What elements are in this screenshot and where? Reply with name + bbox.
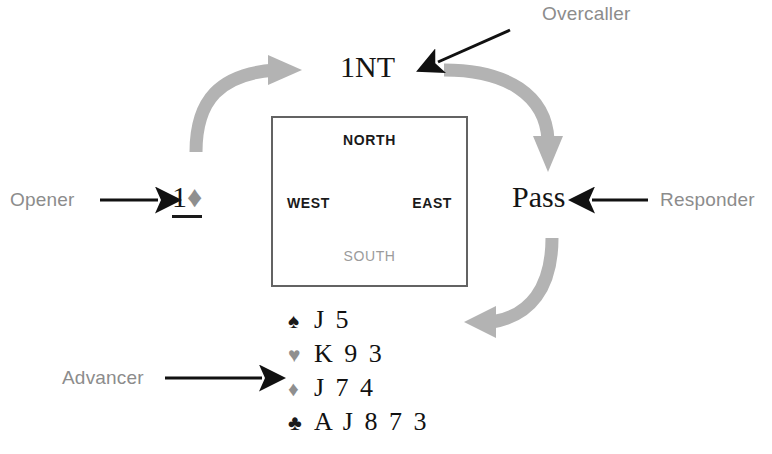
responder-bid-text: Pass (512, 180, 565, 213)
compass-label-east: EAST (412, 196, 452, 210)
opener-bid-rank: 1 (172, 180, 187, 213)
opener-label: Opener (10, 190, 75, 209)
hand-row-clubs: ♣ A J 8 7 3 (288, 405, 518, 439)
diamond-icon: ♦ (187, 180, 202, 213)
hand-cards-diamonds: J 7 4 (314, 371, 376, 405)
club-icon: ♣ (288, 412, 314, 433)
spade-icon: ♠ (288, 310, 314, 331)
overcaller-pointer-arrow (438, 30, 510, 62)
responder-bid-pass: Pass (512, 182, 565, 212)
responder-label: Responder (660, 190, 755, 209)
hand-cards-hearts: K 9 3 (314, 337, 384, 371)
hand-row-spades: ♠ J 5 (288, 303, 518, 337)
advancer-label: Advancer (62, 368, 144, 387)
hand-row-hearts: ♥ K 9 3 (288, 337, 518, 371)
compass-label-south: SOUTH (273, 249, 466, 263)
overcaller-label: Overcaller (542, 4, 631, 23)
advancer-hand: ♠ J 5 ♥ K 9 3 ♦ J 7 4 ♣ A J 8 7 3 (288, 303, 518, 439)
overcaller-bid-text: 1NT (340, 50, 395, 83)
compass-label-west: WEST (287, 196, 330, 210)
hand-cards-spades: J 5 (314, 303, 351, 337)
overcaller-bid-1nt: 1NT (340, 52, 395, 82)
hand-cards-clubs: A J 8 7 3 (314, 405, 429, 439)
heart-icon: ♥ (288, 344, 314, 365)
compass-box: NORTH WEST EAST SOUTH (271, 116, 468, 287)
opener-bid-1-diamond: 1♦ (172, 182, 202, 218)
hand-row-diamonds: ♦ J 7 4 (288, 371, 518, 405)
compass-label-north: NORTH (273, 133, 466, 147)
diamond-icon: ♦ (288, 378, 314, 399)
bridge-bidding-diagram: Overcaller Opener Responder Advancer 1NT… (0, 0, 772, 454)
